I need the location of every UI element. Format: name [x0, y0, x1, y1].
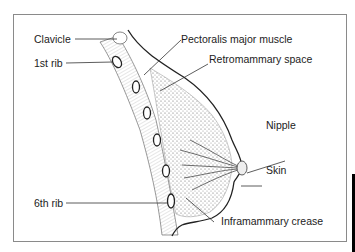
label-pectoralis-major: Pectoralis major muscle	[181, 33, 292, 45]
label-skin: Skin	[266, 164, 286, 176]
label-nipple: Nipple	[266, 119, 296, 131]
nipple-shape	[237, 161, 247, 175]
clavicle-bone	[113, 32, 127, 44]
label-inframammary-crease: Inframammary crease	[221, 215, 323, 227]
label-sixth-rib: 6th rib	[34, 197, 63, 209]
label-retromammary-space: Retromammary space	[209, 53, 312, 65]
label-clavicle: Clavicle	[34, 33, 71, 45]
label-first-rib: 1st rib	[34, 57, 63, 69]
